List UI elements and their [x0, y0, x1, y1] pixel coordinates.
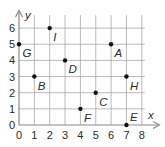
coordinate-plane-chart: x y 012345678 0123456 ABCDEFGHI: [0, 0, 165, 147]
point-label: B: [38, 80, 46, 92]
point-marker: [124, 123, 128, 127]
x-tick-label: 6: [108, 129, 114, 141]
x-tick-label: 1: [31, 129, 37, 141]
x-tick-label: 5: [93, 129, 99, 141]
y-tick-label: 3: [9, 71, 15, 83]
point-label: I: [53, 31, 57, 43]
point-marker: [109, 42, 113, 46]
y-tick-labels: 0123456: [9, 22, 15, 131]
point-label: E: [130, 111, 138, 123]
point-marker: [17, 42, 21, 46]
point-label: C: [99, 96, 108, 108]
axes: x y: [16, 9, 160, 129]
y-tick-label: 2: [9, 87, 15, 99]
point-marker: [94, 91, 98, 95]
point-label: H: [130, 80, 139, 92]
y-tick-label: 0: [9, 119, 15, 131]
x-axis-label: x: [147, 109, 155, 121]
x-tick-labels: 012345678: [16, 129, 145, 141]
point-label: D: [69, 63, 77, 75]
y-tick-label: 5: [9, 38, 15, 50]
x-tick-label: 2: [47, 129, 53, 141]
y-tick-label: 1: [9, 103, 15, 115]
point-marker: [78, 107, 82, 111]
y-tick-label: 6: [9, 22, 15, 34]
y-axis-label: y: [24, 9, 32, 21]
point-label: G: [23, 47, 32, 59]
x-tick-label: 8: [139, 129, 145, 141]
point-marker: [63, 58, 67, 62]
point-marker: [32, 74, 36, 78]
x-tick-label: 4: [77, 129, 83, 141]
x-tick-label: 7: [123, 129, 129, 141]
y-tick-label: 4: [9, 54, 15, 66]
point-label: F: [84, 112, 92, 124]
point-label: A: [114, 47, 123, 59]
x-tick-label: 3: [62, 129, 68, 141]
point-marker: [48, 26, 52, 30]
x-tick-label: 0: [16, 129, 22, 141]
point-marker: [124, 74, 128, 78]
